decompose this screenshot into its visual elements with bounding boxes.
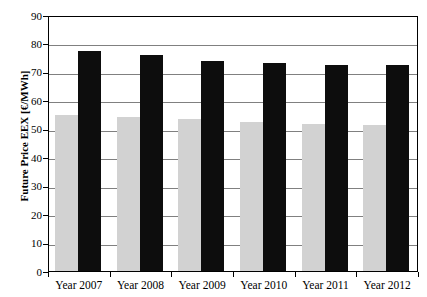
gridline	[49, 131, 417, 132]
y-tick-label: 30	[14, 181, 42, 192]
bar	[178, 119, 201, 271]
plot-area	[48, 16, 418, 272]
bar	[240, 122, 263, 271]
bar	[78, 51, 101, 271]
y-tick-label: 10	[14, 238, 42, 249]
gridline	[49, 74, 417, 75]
x-tick-label: Year 2007	[48, 278, 110, 292]
x-tick-label: Year 2010	[233, 278, 295, 292]
bar	[386, 65, 409, 271]
x-tick-label: Year 2012	[356, 278, 418, 292]
gridline	[49, 159, 417, 160]
gridline	[49, 245, 417, 246]
x-tick-label: Year 2011	[295, 278, 357, 292]
y-tick-label: 80	[14, 39, 42, 50]
bar	[325, 65, 348, 271]
y-tick-label: 0	[14, 267, 42, 278]
y-tick-label: 20	[14, 210, 42, 221]
x-tick-mark	[48, 272, 49, 277]
bar	[117, 117, 140, 271]
bar	[363, 125, 386, 271]
x-tick-mark	[171, 272, 172, 277]
y-tick-label: 90	[14, 11, 42, 22]
y-tick-label: 50	[14, 124, 42, 135]
bar	[302, 124, 325, 271]
bar	[201, 61, 224, 271]
gridline	[49, 45, 417, 46]
y-tick-label: 40	[14, 153, 42, 164]
gridline	[49, 216, 417, 217]
x-tick-label: Year 2009	[171, 278, 233, 292]
gridline	[49, 188, 417, 189]
x-tick-mark	[110, 272, 111, 277]
bar-chart: Future Price EEX [€/MWh] 010203040506070…	[0, 0, 427, 297]
x-tick-mark	[295, 272, 296, 277]
y-tick-label: 70	[14, 67, 42, 78]
bar	[55, 115, 78, 271]
bar	[263, 63, 286, 271]
gridline	[49, 102, 417, 103]
x-tick-label: Year 2008	[110, 278, 172, 292]
x-tick-mark	[233, 272, 234, 277]
y-tick-label: 60	[14, 96, 42, 107]
x-tick-mark	[418, 272, 419, 277]
bar	[140, 55, 163, 271]
x-tick-mark	[356, 272, 357, 277]
